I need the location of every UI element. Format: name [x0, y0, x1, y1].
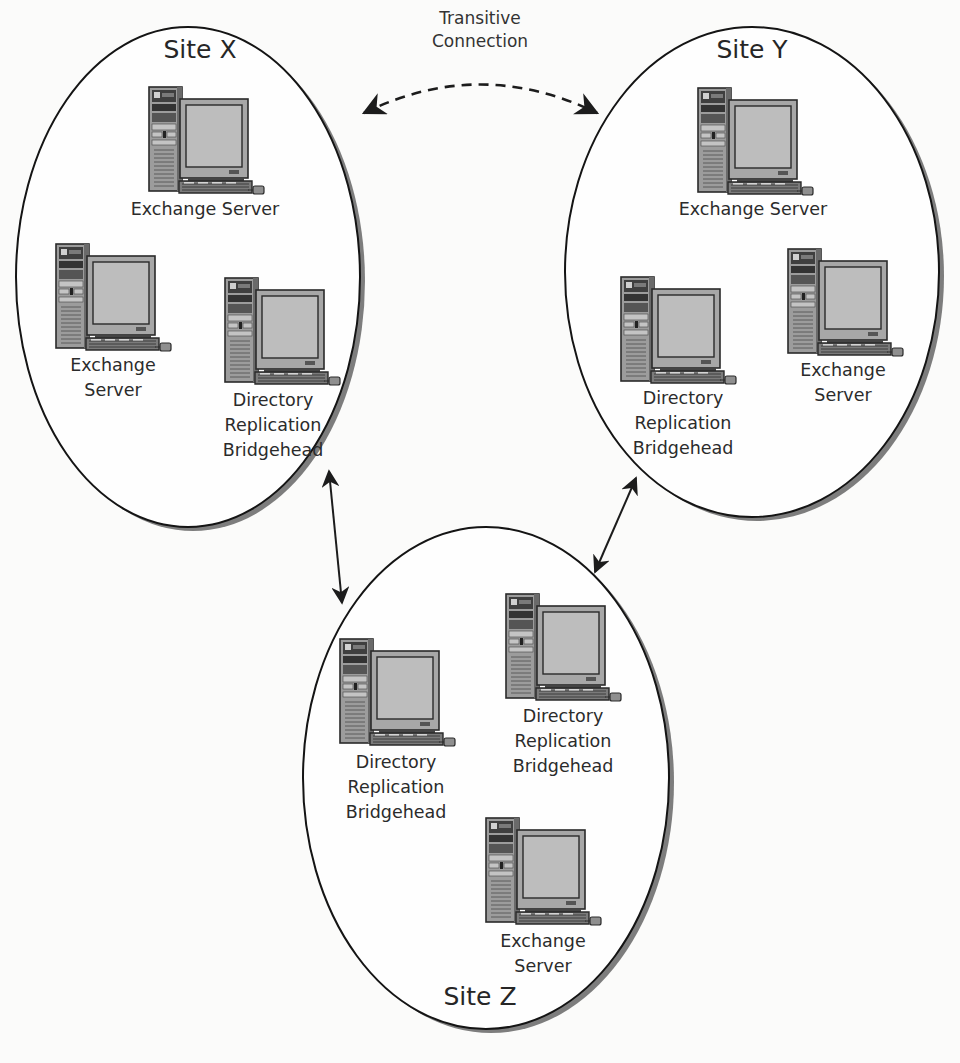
node-label: Server	[514, 956, 572, 976]
site-z-title: Site Z	[443, 982, 516, 1011]
node-label: Bridgehead	[223, 440, 324, 460]
computer-icon	[788, 249, 903, 356]
site-y-title: Site Y	[716, 35, 788, 64]
node-label: Directory	[356, 752, 437, 772]
node-label: Replication	[225, 415, 322, 435]
node-label: Directory	[643, 388, 724, 408]
computer-icon	[506, 594, 621, 701]
node-label: Exchange	[800, 360, 886, 380]
node-label: Server	[84, 380, 142, 400]
site-z-directory-replication-bridgehead-left: Directory Replication Bridgehead	[340, 639, 455, 822]
node-label: Replication	[635, 413, 732, 433]
node-label: Exchange Server	[131, 199, 280, 219]
node-label: Bridgehead	[633, 438, 734, 458]
computer-icon	[225, 278, 340, 385]
node-label: Bridgehead	[346, 802, 447, 822]
computer-icon	[56, 244, 171, 351]
computer-icon	[486, 818, 601, 925]
node-label: Exchange	[500, 931, 586, 951]
computer-icon	[698, 88, 813, 195]
transitive-connection: Transitive Connection	[364, 8, 597, 113]
node-label: Bridgehead	[513, 756, 614, 776]
site-topology-diagram: Site X Site Y Site Z Exchange Server Exc…	[0, 0, 960, 1063]
node-label: Replication	[515, 731, 612, 751]
site-y-directory-replication-bridgehead: Directory Replication Bridgehead	[621, 277, 736, 458]
site-z-directory-replication-bridgehead-right: Directory Replication Bridgehead	[506, 594, 621, 776]
node-label: Server	[814, 385, 872, 405]
site-x-title: Site X	[163, 35, 236, 64]
computer-icon	[149, 87, 264, 194]
computer-icon	[621, 277, 736, 384]
node-label: Directory	[523, 706, 604, 726]
node-label: Exchange Server	[679, 199, 828, 219]
transitive-connection-label: Connection	[432, 31, 528, 51]
computer-icon	[340, 639, 455, 746]
transitive-connection-label: Transitive	[438, 8, 521, 28]
node-label: Replication	[348, 777, 445, 797]
dashed-double-arrow-icon	[364, 85, 597, 114]
site-y-to-site-z-double-arrow-icon	[595, 478, 636, 572]
site-x-to-site-z-double-arrow-icon	[329, 471, 342, 603]
node-label: Directory	[233, 390, 314, 410]
node-label: Exchange	[70, 355, 156, 375]
